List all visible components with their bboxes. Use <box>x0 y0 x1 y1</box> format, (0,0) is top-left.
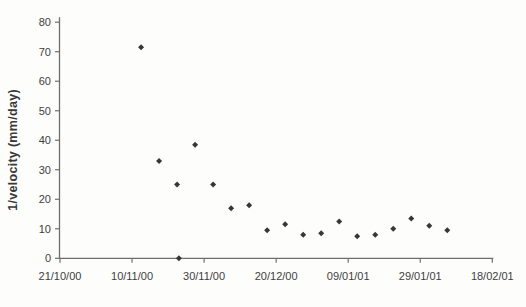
data-point-marker <box>318 230 324 236</box>
data-point-marker <box>174 182 180 188</box>
y-tick-group: 01020304050607080 <box>39 16 60 264</box>
y-tick-label: 60 <box>39 75 51 87</box>
data-point-marker <box>228 205 234 211</box>
data-point-marker <box>390 226 396 232</box>
data-point-marker <box>336 218 342 224</box>
data-point-marker <box>426 223 432 229</box>
y-tick-label: 50 <box>39 105 51 117</box>
y-tick-label: 40 <box>39 134 51 146</box>
data-point-marker <box>176 255 182 261</box>
x-tick-label: 21/10/00 <box>39 270 82 282</box>
x-tick-label: 30/11/00 <box>183 270 225 282</box>
chart-canvas: 0102030405060708021/10/0010/11/0030/11/0… <box>0 0 526 307</box>
data-point-marker <box>192 142 198 148</box>
data-point-marker <box>210 182 216 188</box>
data-point-marker <box>264 227 270 233</box>
x-tick-label: 09/01/01 <box>327 270 370 282</box>
x-tick-group: 21/10/0010/11/0030/11/0020/12/0009/01/01… <box>39 258 514 282</box>
data-point-marker <box>300 232 306 238</box>
x-tick-label: 20/12/00 <box>255 270 298 282</box>
data-point-marker <box>138 44 144 50</box>
data-point-marker <box>156 158 162 164</box>
y-tick-label: 20 <box>39 193 51 205</box>
scatter-chart-figure: 0102030405060708021/10/0010/11/0030/11/0… <box>0 0 526 307</box>
data-point-marker <box>282 221 288 227</box>
data-point-marker <box>354 233 360 239</box>
x-tick-label: 18/02/01 <box>471 270 514 282</box>
axes <box>60 17 494 259</box>
y-axis-title: 1/velocity (mm/day) <box>6 89 20 211</box>
y-tick-label: 70 <box>39 46 51 58</box>
data-points <box>138 44 450 261</box>
data-point-marker <box>444 227 450 233</box>
y-tick-label: 0 <box>45 252 51 264</box>
data-point-marker <box>372 232 378 238</box>
y-tick-label: 10 <box>39 223 51 235</box>
x-tick-label: 29/01/01 <box>399 270 442 282</box>
data-point-marker <box>246 202 252 208</box>
x-tick-label: 10/11/00 <box>111 270 153 282</box>
data-point-marker <box>408 215 414 221</box>
y-tick-label: 30 <box>39 164 51 176</box>
y-tick-label: 80 <box>39 16 51 28</box>
